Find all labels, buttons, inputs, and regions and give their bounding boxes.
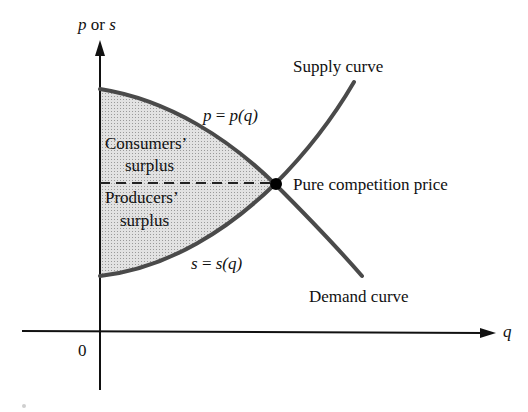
y-axis-arrow-icon — [95, 40, 105, 56]
origin-label: 0 — [78, 341, 87, 360]
consumers-surplus-label-2: surplus — [125, 156, 174, 175]
supply-curve-label: Supply curve — [293, 57, 383, 76]
producers-surplus-label-2: surplus — [120, 211, 169, 230]
equilibrium-label: Pure competition price — [293, 175, 448, 194]
consumers-surplus-label-1: Consumers’ — [105, 134, 187, 153]
x-axis-label: q — [503, 322, 512, 341]
y-axis-label: p or s — [77, 15, 116, 34]
demand-equation: p = p(q) — [202, 106, 258, 125]
demand-curve-label: Demand curve — [309, 287, 409, 306]
supply-equation: s = s(q) — [191, 254, 242, 273]
x-axis-arrow-icon — [480, 328, 496, 338]
producers-surplus-label-1: Producers’ — [105, 188, 179, 207]
equilibrium-point — [270, 178, 282, 190]
x-axis — [22, 331, 484, 333]
surplus-diagram: p or s q 0 Supply curve Demand curve p =… — [0, 0, 528, 412]
scan-speck — [22, 404, 26, 408]
